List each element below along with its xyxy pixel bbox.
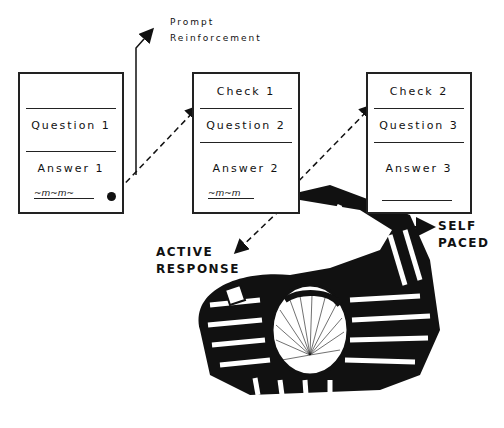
question-label: Question 2 [200,119,292,132]
reinforcement-line: Reinforcement [170,30,262,46]
prompt-line: Prompt [170,14,262,30]
check-label: Check 1 [200,85,292,98]
frame-divider [374,142,464,143]
frame-2: Check 1 Question 2 Answer 2 ~m~m [192,72,300,214]
frame-divider [374,108,464,109]
striped-figure-illustration [199,185,440,395]
frame-3: Check 2 Question 3 Answer 3 [366,72,472,214]
question-label: Question 3 [374,119,464,132]
self-paced-label: SELF PACED [438,218,489,252]
answer-label: Answer 1 [26,162,116,175]
arrows-layer [0,0,504,428]
answer-label: Answer 2 [200,162,292,175]
blank-response-line [382,200,452,201]
frame-1: Question 1 Answer 1 ~m~m~ [18,72,124,214]
frame-divider [200,108,292,109]
answer-label: Answer 3 [374,162,464,175]
handwritten-response: ~m~m [208,190,254,199]
handwritten-response: ~m~m~ [34,190,94,199]
prompt-reinforcement-arrow [136,30,152,175]
prompt-reinforcement-label: Prompt Reinforcement [170,14,262,46]
paced-line: PACED [438,235,489,252]
active-response-arrow [236,210,280,252]
self-line: SELF [438,218,489,235]
active-response-label: ACTIVE RESPONSE [156,244,240,278]
active-line: ACTIVE [156,244,240,261]
response-line: RESPONSE [156,261,240,278]
frame-divider [200,142,292,143]
response-dot [107,192,116,201]
question-label: Question 1 [26,119,116,132]
progress-arrow-1 [112,107,198,197]
check-label: Check 2 [374,85,464,98]
frame-divider [26,108,116,109]
frame-divider [26,151,116,152]
